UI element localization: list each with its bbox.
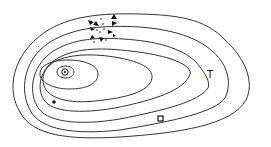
contour-line-6 bbox=[40, 60, 98, 89]
circle-dot-icon bbox=[62, 69, 68, 75]
square-icon bbox=[158, 116, 163, 121]
contour-line-1 bbox=[13, 14, 249, 138]
contour-line-3 bbox=[33, 38, 209, 122]
contour-map: T bbox=[0, 0, 271, 147]
filled-dot-icon bbox=[52, 100, 56, 104]
contour-diagram: T bbox=[0, 0, 271, 147]
t-marker-label: T bbox=[206, 69, 214, 80]
contour-line-2 bbox=[25, 26, 229, 131]
